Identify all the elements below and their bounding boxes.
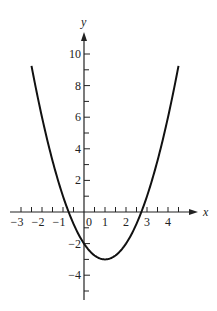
- y-tick-label: 6: [75, 110, 81, 124]
- x-tick-label: 4: [165, 215, 171, 229]
- y-tick-label: 4: [75, 142, 81, 156]
- x-tick-label: 1: [102, 215, 108, 229]
- y-axis-arrow-icon: [81, 32, 87, 41]
- y-axis-label: y: [80, 15, 87, 29]
- parabola-curve: [32, 66, 179, 260]
- y-tick-label: 10: [69, 47, 81, 61]
- x-tick-label: −2: [32, 215, 45, 229]
- y-tick-label: −4: [68, 268, 81, 282]
- x-tick-label: 2: [123, 215, 129, 229]
- x-tick-label: 0: [86, 215, 92, 229]
- y-tick-label: 2: [75, 173, 81, 187]
- y-tick-label: −2: [68, 237, 81, 251]
- x-tick-label: 3: [144, 215, 150, 229]
- x-tick-label: −1: [53, 215, 66, 229]
- x-tick-label: −3: [11, 215, 24, 229]
- y-tick-label: 8: [75, 79, 81, 93]
- parabola-chart: −3−2−101234−4−2246810 x y: [0, 0, 217, 311]
- x-axis-arrow-icon: [189, 209, 198, 215]
- x-axis-label: x: [202, 205, 209, 219]
